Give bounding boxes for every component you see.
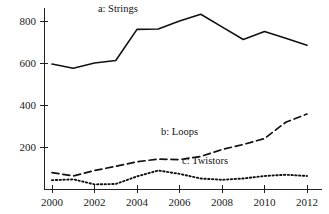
chart-series-group — [52, 14, 307, 184]
y-tick-label: 800 — [20, 15, 37, 27]
x-tick-label: 2002 — [84, 196, 106, 208]
chart-page: 200400600800 200020022004200620082010201… — [0, 0, 329, 214]
x-tick-label: 2004 — [126, 196, 149, 208]
y-tick-label: 400 — [20, 99, 37, 111]
line-chart: 200400600800 200020022004200620082010201… — [0, 0, 329, 214]
y-tick-label: 200 — [20, 141, 37, 153]
series-line-b-loops — [52, 114, 307, 176]
series-annotation: b: Loops — [161, 126, 198, 137]
x-axis-tick-labels: 2000200220042006200820102012 — [41, 196, 318, 208]
x-tick-label: 2012 — [296, 196, 318, 208]
series-line-c-twistors — [52, 171, 307, 185]
series-line-a-strings — [52, 14, 307, 68]
y-axis-tick-labels: 200400600800 — [20, 15, 37, 153]
x-tick-label: 2000 — [41, 196, 64, 208]
x-tick-label: 2008 — [211, 196, 234, 208]
series-annotation: c: Twistors — [182, 155, 228, 166]
series-annotation: a: Strings — [98, 3, 138, 14]
x-tick-label: 2010 — [254, 196, 277, 208]
y-tick-label: 600 — [20, 57, 37, 69]
x-tick-label: 2006 — [169, 196, 192, 208]
